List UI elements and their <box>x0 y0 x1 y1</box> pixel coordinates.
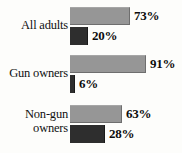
category-label-non-gun-owners-line1: Non-gun <box>25 107 68 121</box>
category-label-gun-owners: Gun owners <box>2 67 68 80</box>
category-label-all-adults: All adults <box>2 19 68 32</box>
grouped-bar-chart: All adults 73% 20% Gun owners 91% 6% Non… <box>0 0 182 153</box>
bar-gun-owners-light <box>70 55 146 73</box>
category-label-non-gun-owners-line2: owners <box>33 121 68 135</box>
bar-gun-owners-dark <box>70 75 75 93</box>
category-label-non-gun-owners: Non-gunowners <box>2 107 68 135</box>
bar-all-adults-dark <box>70 27 88 45</box>
value-label-gun-owners-light: 91% <box>150 57 175 70</box>
value-label-all-adults-light: 73% <box>134 9 159 22</box>
value-label-all-adults-dark: 20% <box>92 29 117 42</box>
value-label-non-gun-owners-dark: 28% <box>109 127 134 140</box>
bar-non-gun-owners-dark <box>70 125 105 143</box>
bar-non-gun-owners-light <box>70 105 122 123</box>
value-label-non-gun-owners-light: 63% <box>126 107 151 120</box>
value-label-gun-owners-dark: 6% <box>79 77 98 90</box>
bar-all-adults-light <box>70 7 130 25</box>
